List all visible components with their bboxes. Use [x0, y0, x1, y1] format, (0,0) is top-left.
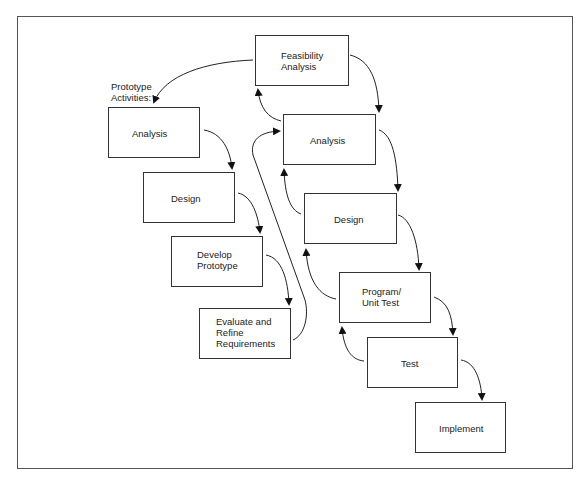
arrow-feasibility-to-prototype [154, 60, 253, 102]
box-prototype-design: Design [143, 172, 235, 223]
box-label: Analysis [310, 135, 345, 146]
arrow-design-to-program [398, 215, 419, 269]
arrow-analysis-to-design [379, 130, 398, 190]
arrow-p-analysis-to-p-design [204, 130, 232, 168]
box-design: Design [304, 193, 397, 244]
box-prototype-analysis: Analysis [108, 107, 200, 158]
box-program-unit-test: Program/ Unit Test [339, 272, 431, 323]
arrow-p-design-to-p-develop [238, 193, 260, 232]
box-evaluate-refine-requirements: Evaluate and Refine Requirements [199, 308, 291, 359]
box-label: Implement [439, 423, 483, 434]
arrow-feasibility-to-analysis [350, 55, 379, 111]
box-analysis: Analysis [283, 114, 376, 165]
arrow-p-develop-to-p-evaluate [266, 255, 289, 304]
arrow-program-to-test [434, 297, 453, 334]
arrow-design-to-analysis [284, 170, 301, 214]
arrow-test-to-implement [461, 360, 482, 399]
box-label: Program/ Unit Test [362, 286, 401, 308]
box-label: Analysis [132, 128, 167, 139]
box-label: Design [334, 214, 364, 225]
box-label: Design [171, 193, 201, 204]
box-implement: Implement [415, 402, 506, 453]
box-label: Develop Prototype [197, 249, 238, 271]
arrow-analysis-to-feasibility [258, 90, 281, 121]
arrow-test-to-program [342, 328, 364, 361]
box-develop-prototype: Develop Prototype [171, 236, 263, 287]
arrow-program-to-design [306, 250, 336, 299]
box-feasibility-analysis: Feasibility Analysis [255, 35, 349, 86]
box-label: Evaluate and Refine Requirements [216, 316, 275, 349]
prototype-activities-label: Prototype Activities: [111, 81, 152, 103]
box-test: Test [367, 337, 458, 388]
box-label: Feasibility Analysis [281, 50, 323, 72]
box-label: Test [401, 358, 418, 369]
